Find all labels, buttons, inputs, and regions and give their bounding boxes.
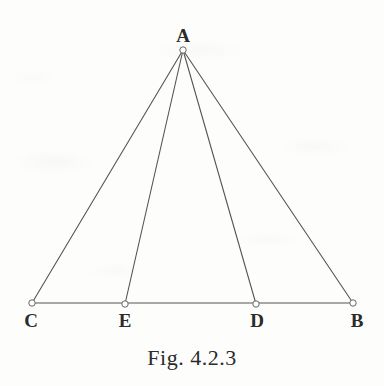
segment-ad — [183, 50, 256, 304]
vertex-point-c — [29, 300, 35, 306]
vertex-point-b — [350, 300, 356, 306]
vertex-label-c: C — [24, 311, 38, 330]
vertex-label-a: A — [176, 26, 190, 45]
segment-ac — [32, 50, 183, 303]
geometry-diagram — [0, 0, 384, 386]
vertex-label-b: B — [351, 311, 364, 330]
segment-ae — [125, 50, 183, 304]
vertex-label-e: E — [119, 311, 132, 330]
figure-page: ACEDB Fig. 4.2.3 — [0, 0, 384, 386]
vertex-point-a — [180, 47, 186, 53]
vertex-point-e — [122, 301, 128, 307]
segments-layer — [32, 50, 353, 304]
vertex-label-d: D — [250, 311, 264, 330]
segment-ab — [183, 50, 353, 303]
vertex-point-d — [253, 301, 259, 307]
vertices-layer — [29, 47, 356, 307]
figure-caption: Fig. 4.2.3 — [0, 345, 384, 371]
